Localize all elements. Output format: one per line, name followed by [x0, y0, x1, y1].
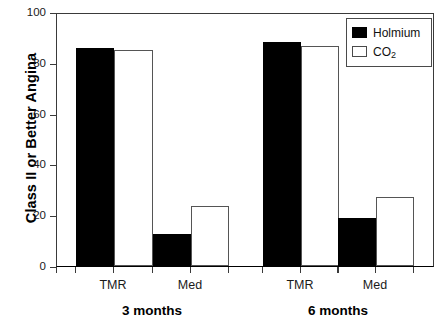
x-tick-mark [228, 267, 229, 273]
x-tick-mark [56, 267, 57, 273]
bar-3-months-med-holmium [153, 234, 191, 266]
y-tick-label: 0 [14, 261, 46, 273]
x-tick-mark [300, 267, 301, 273]
legend-swatch-holmium-icon [352, 27, 367, 38]
legend-item-holmium: Holmium [352, 23, 426, 42]
x-tick-mark [337, 267, 338, 273]
x-category-label: TMR [260, 278, 340, 292]
bar-6-months-med-co2 [376, 197, 414, 266]
legend-label: CO2 [373, 45, 396, 59]
legend-swatch-co2-icon [352, 46, 367, 57]
x-tick-mark [113, 267, 114, 273]
x-category-label: Med [150, 278, 230, 292]
bar-6-months-tmr-co2 [301, 46, 339, 266]
chart-legend: HolmiumCO2 [346, 18, 432, 67]
x-tick-mark [375, 267, 376, 273]
x-tick-mark [262, 267, 263, 273]
x-category-label: Med [335, 278, 415, 292]
x-tick-mark [152, 267, 153, 273]
bar-3-months-med-co2 [191, 206, 229, 266]
y-tick-label: 80 [14, 58, 46, 70]
y-tick-label: 100 [14, 7, 46, 19]
bar-3-months-tmr-holmium [76, 48, 114, 266]
x-tick-mark [413, 267, 414, 273]
x-tick-mark [338, 267, 339, 273]
x-group-label: 6 months [278, 303, 398, 318]
bar-6-months-med-holmium [338, 218, 376, 266]
legend-label: Holmium [373, 26, 420, 40]
y-tick-label: 20 [14, 210, 46, 222]
y-tick-label: 60 [14, 109, 46, 121]
bar-3-months-tmr-co2 [114, 50, 153, 266]
x-group-label: 3 months [92, 303, 212, 318]
x-tick-mark [75, 267, 76, 273]
x-tick-mark [190, 267, 191, 273]
x-category-label: TMR [73, 278, 153, 292]
legend-item-co2: CO2 [352, 42, 426, 61]
bar-6-months-tmr-holmium [263, 42, 301, 266]
bar-chart-figure: Class II or Better Angina 020406080100 T… [0, 0, 445, 330]
y-tick-label: 40 [14, 159, 46, 171]
legend-label-subscript: 2 [391, 50, 396, 60]
